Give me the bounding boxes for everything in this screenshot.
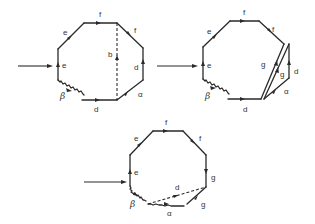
surface-surgery-diagram: f e e β d α d f b (0, 0, 315, 224)
edge-arrow-icon (240, 97, 245, 101)
label-top: f (243, 8, 246, 17)
edge-arrow-icon (201, 61, 205, 66)
label-top: f (165, 118, 168, 127)
label-upper-left: e (134, 134, 139, 143)
octagon-stage-3: f e e β α g g f d (128, 118, 215, 218)
edge-arrow-icon (204, 169, 208, 174)
edge-arrow-icon (287, 60, 291, 65)
label-top: f (99, 10, 102, 19)
transition-arrow-1 (18, 64, 53, 68)
edge-arrow-icon (240, 19, 245, 23)
label-bottom: α (167, 209, 172, 218)
edge-upper-right-f (117, 23, 143, 48)
octagon-stage-1: f e e β d α d f b (56, 10, 145, 114)
label-upper-left: e (63, 28, 68, 37)
label-right: d (134, 63, 138, 72)
edge-arrow-icon (115, 55, 119, 60)
transition-arrow-3 (84, 180, 127, 184)
label-upper-right: f (272, 25, 275, 34)
label-upper-left: e (207, 27, 212, 36)
edge-arrow-icon (163, 129, 168, 133)
label-lower-right: g (201, 200, 205, 209)
edge-arrow-icon (128, 169, 132, 174)
label-flap-bottom: α (284, 87, 289, 96)
label-cut-inner: g (280, 70, 284, 79)
label-lower-left: β (59, 91, 65, 101)
label-left: e (134, 168, 139, 177)
label-diagonal: b (108, 50, 113, 59)
edge-arrow-icon (141, 59, 145, 64)
edge-arrow-icon (56, 62, 60, 67)
label-bottom: d (94, 105, 98, 114)
label-flap-right: d (294, 67, 298, 76)
label-lower-left: β (129, 199, 135, 209)
transition-arrow-2 (157, 64, 198, 68)
label-left: e (62, 61, 67, 70)
label-right: g (211, 173, 215, 182)
label-diagonal: d (175, 183, 179, 192)
edge-arrow-icon (96, 21, 101, 25)
edge-arrow-icon (95, 98, 100, 102)
label-bottom: d (243, 105, 247, 114)
label-left: e (207, 61, 212, 70)
label-lower-left: β (204, 91, 210, 101)
octagon-stage-2: f e e β d f g g d α (201, 8, 298, 114)
label-cut-outer: g (261, 60, 265, 69)
edge-arrow-icon (173, 195, 179, 198)
label-upper-right: f (134, 26, 137, 35)
label-lower-right: α (138, 90, 143, 99)
label-upper-right: f (199, 134, 202, 143)
